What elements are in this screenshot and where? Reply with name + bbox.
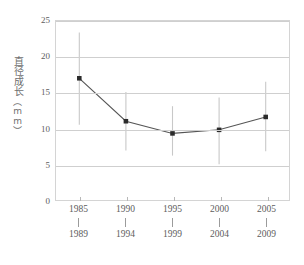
x-tickmark-0 — [80, 197, 81, 201]
y-tick-label-20: 20 — [28, 51, 50, 61]
plot-area — [55, 20, 290, 201]
x-category-separator-0 — [78, 218, 79, 227]
y-tick-label-25: 25 — [28, 15, 50, 25]
data-point-2 — [170, 131, 175, 136]
gridline-25 — [56, 21, 289, 22]
x-category-separator-2 — [172, 218, 173, 227]
x-tickmark-3 — [221, 197, 222, 201]
chart-container: 直径成长 （mm） 0510152025 1985198919901994199… — [0, 0, 304, 265]
y-axis-ticks: 0510152025 — [28, 0, 50, 265]
x-tickmark-4 — [268, 197, 269, 201]
data-point-1 — [124, 119, 129, 124]
y-axis-title-text: 直径成长 — [12, 56, 23, 96]
y-axis-title: 直径成长 （mm） — [4, 56, 30, 135]
y-tick-label-15: 15 — [28, 87, 50, 97]
y-tick-label-5: 5 — [28, 160, 50, 170]
y-axis-unit-text: （mm） — [12, 97, 22, 135]
gridline-10 — [56, 130, 289, 131]
y-tick-label-0: 0 — [28, 196, 50, 206]
x-tickmark-2 — [174, 197, 175, 201]
y-tick-label-10: 10 — [28, 124, 50, 134]
data-point-4 — [263, 115, 268, 120]
x-axis-labels: 1985198919901994199519992000200420052009 — [55, 203, 290, 263]
x-category-end-4: 2009 — [237, 228, 297, 241]
x-category-start-4: 2005 — [237, 203, 297, 216]
data-layer — [56, 21, 289, 200]
data-point-0 — [77, 76, 82, 81]
gridline-5 — [56, 166, 289, 167]
x-tickmark-1 — [127, 197, 128, 201]
x-category-separator-4 — [266, 218, 267, 227]
x-category-separator-3 — [219, 218, 220, 227]
x-category-4: 20052009 — [237, 203, 297, 241]
gridline-20 — [56, 57, 289, 58]
x-category-separator-1 — [125, 218, 126, 227]
gridline-15 — [56, 93, 289, 94]
